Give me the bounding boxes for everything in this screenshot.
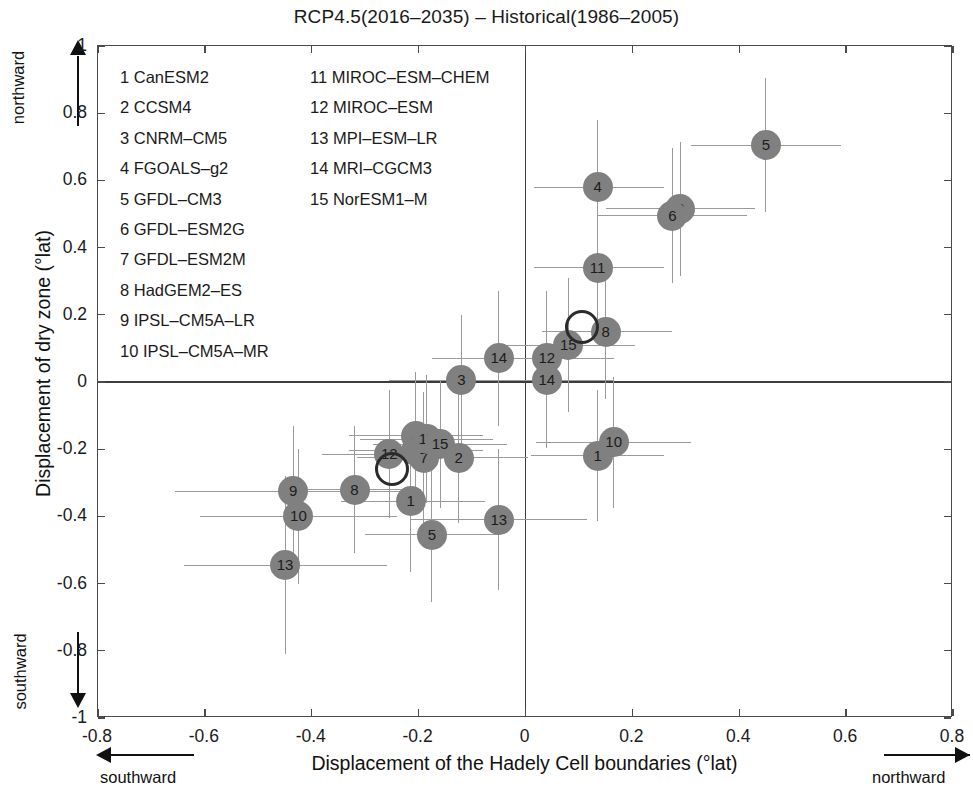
x-tick-top--0.6 — [204, 46, 205, 53]
legend-item-11: 11 MIROC–ESM–CHEM — [310, 68, 489, 87]
data-point-6[interactable]: 6 — [657, 201, 687, 231]
x-tick-top-0.8 — [952, 46, 953, 53]
legend-model-name-12: MIROC–ESM — [328, 98, 433, 116]
data-point-8[interactable]: 8 — [340, 475, 370, 505]
legend-item-15: 15 NorESM1–M — [310, 190, 427, 209]
x-tick--0.8 — [97, 709, 98, 716]
y-tick-right-0.2 — [944, 314, 951, 315]
data-point-11[interactable]: 11 — [583, 253, 613, 283]
y-tick-right--0.8 — [944, 650, 951, 651]
y-tick-label--0.2: -0.2 — [41, 438, 87, 459]
legend-number-3: 3 — [120, 129, 129, 148]
legend-model-name-2: CCSM4 — [129, 98, 191, 116]
legend-item-8: 8 HadGEM2–ES — [120, 281, 242, 300]
x-tick-label-0.4: 0.4 — [726, 726, 750, 747]
x-axis-northward-label: northward — [872, 768, 945, 787]
legend-number-4: 4 — [120, 159, 129, 178]
legend-item-9: 9 IPSL–CM5A–LR — [120, 311, 255, 330]
data-point-10[interactable]: 10 — [599, 427, 629, 457]
y-tick-label-0.8: 0.8 — [41, 102, 87, 123]
y-tick-label--0.4: -0.4 — [41, 505, 87, 526]
y-tick-right-1 — [944, 45, 951, 46]
y-tick--0.2 — [98, 449, 105, 450]
data-point-4[interactable]: 4 — [583, 172, 613, 202]
y-tick-label--1: -1 — [41, 707, 87, 728]
x-tick-top-0.4 — [739, 46, 740, 53]
y-tick--1 — [98, 717, 105, 718]
y-tick-0.4 — [98, 247, 105, 248]
y-tick-right-0.6 — [944, 180, 951, 181]
ensemble-mean-marker[interactable] — [375, 452, 409, 486]
legend-number-13: 13 — [310, 129, 328, 148]
legend-model-name-13: MPI–ESM–LR — [328, 129, 437, 147]
y-tick-label--0.6: -0.6 — [41, 572, 87, 593]
legend-item-5: 5 GFDL–CM3 — [120, 190, 222, 209]
y-tick-label-0.2: 0.2 — [41, 303, 87, 324]
x-tick--0.4 — [311, 709, 312, 716]
y-tick-right-0.8 — [944, 113, 951, 114]
y-axis-southward-label: southward — [11, 633, 30, 709]
ensemble-mean-marker[interactable] — [565, 310, 599, 344]
x-tick-top-0 — [525, 46, 526, 53]
y-tick-0.6 — [98, 180, 105, 181]
data-point-5[interactable]: 5 — [417, 520, 447, 550]
legend-number-2: 2 — [120, 98, 129, 117]
legend-item-3: 3 CNRM–CM5 — [120, 129, 227, 148]
y-tick-0.8 — [98, 113, 105, 114]
data-point-14[interactable]: 14 — [484, 343, 514, 373]
x-tick-label--0.2: -0.2 — [403, 726, 433, 747]
legend-model-name-5: GFDL–CM3 — [129, 190, 222, 208]
chart-title: RCP4.5(2016–2035) – Historical(1986–2005… — [0, 6, 973, 28]
y-axis-title: Displacement of dry zone (°lat) — [32, 84, 55, 644]
y-tick-label--0.8: -0.8 — [41, 639, 87, 660]
legend-item-6: 6 GFDL–ESM2G — [120, 220, 245, 239]
y-tick-0 — [98, 381, 105, 382]
legend-number-7: 7 — [120, 250, 129, 269]
x-tick-top-0.6 — [845, 46, 846, 53]
data-point-13[interactable]: 13 — [484, 505, 514, 535]
y-axis-northward-label: northward — [9, 51, 28, 124]
legend-number-9: 9 — [120, 311, 129, 330]
legend-model-name-7: GFDL–ESM2M — [129, 250, 245, 268]
data-point-3[interactable]: 3 — [446, 365, 476, 395]
y-tick-label-0: 0 — [41, 371, 87, 392]
legend-model-name-1: CanESM2 — [129, 68, 209, 86]
data-point-10[interactable]: 10 — [283, 501, 313, 531]
x-tick-0.2 — [632, 709, 633, 716]
data-point-5[interactable]: 5 — [751, 130, 781, 160]
x-tick-label-0.6: 0.6 — [833, 726, 857, 747]
x-tick-0.4 — [739, 709, 740, 716]
legend-number-14: 14 — [310, 159, 328, 178]
data-point-14[interactable]: 14 — [532, 365, 562, 395]
legend-item-14: 14 MRI–CGCM3 — [310, 159, 432, 178]
x-axis-title: Displacement of the Hadely Cell boundari… — [97, 752, 952, 775]
data-point-1[interactable]: 1 — [396, 486, 426, 516]
data-point-15[interactable]: 15 — [425, 429, 455, 459]
x-tick--0.2 — [418, 709, 419, 716]
y-tick-right--0.2 — [944, 449, 951, 450]
legend-number-6: 6 — [120, 220, 129, 239]
legend-item-7: 7 GFDL–ESM2M — [120, 250, 246, 269]
legend-number-8: 8 — [120, 281, 129, 300]
legend-model-name-9: IPSL–CM5A–LR — [129, 311, 255, 329]
legend-model-name-14: MRI–CGCM3 — [328, 159, 432, 177]
x-tick-label-0: 0 — [520, 726, 530, 747]
y-tick-label-0.4: 0.4 — [41, 236, 87, 257]
x-tick-label-0.2: 0.2 — [619, 726, 643, 747]
legend-item-1: 1 CanESM2 — [120, 68, 209, 87]
legend-number-12: 12 — [310, 98, 328, 117]
y-tick--0.8 — [98, 650, 105, 651]
data-point-13[interactable]: 13 — [270, 550, 300, 580]
x-tick-top-0.2 — [632, 46, 633, 53]
zero-line-vertical — [525, 46, 527, 716]
x-tick-label--0.6: -0.6 — [189, 726, 219, 747]
y-tick-label-1: 1 — [41, 35, 87, 56]
legend-item-13: 13 MPI–ESM–LR — [310, 129, 437, 148]
x-tick-top--0.8 — [97, 46, 98, 53]
legend-model-name-4: FGOALS–g2 — [129, 159, 228, 177]
legend-model-name-6: GFDL–ESM2G — [129, 220, 245, 238]
legend-model-name-15: NorESM1–M — [328, 190, 427, 208]
y-tick-right-0 — [944, 381, 951, 382]
x-tick-0.6 — [845, 709, 846, 716]
x-tick--0.6 — [204, 709, 205, 716]
